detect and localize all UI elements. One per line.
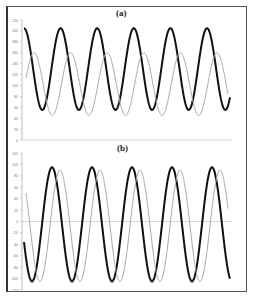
panel-label-a: (a) — [116, 8, 127, 18]
y-tick-label: -80 — [13, 266, 18, 270]
y-tick-label: 0 — [16, 139, 18, 143]
y-tick-label: 140 — [12, 62, 18, 66]
y-tick-label: -40 — [13, 243, 18, 247]
y-tick-label: -100 — [11, 277, 18, 281]
y-tick-label: -20 — [13, 231, 18, 235]
y-tick-label: 0 — [16, 220, 18, 224]
y-tick-label: -120 — [11, 289, 18, 293]
series-light — [26, 53, 228, 116]
panel-label-b: (b) — [117, 143, 128, 153]
y-tick-label: 180 — [12, 40, 18, 44]
y-tick-label: 40 — [14, 117, 18, 121]
y-tick-label: 120 — [12, 152, 18, 156]
y-tick-label: 20 — [14, 128, 18, 132]
y-tick-label: -60 — [13, 254, 18, 258]
y-tick-label: 20 — [14, 209, 18, 213]
y-tick-label: 80 — [14, 174, 18, 178]
y-tick-label: 60 — [14, 186, 18, 190]
y-tick-label: 220 — [12, 19, 18, 23]
series-dark — [24, 28, 230, 110]
y-tick-label: 60 — [14, 106, 18, 110]
y-tick-label: 100 — [12, 163, 18, 167]
y-tick-label: 80 — [14, 95, 18, 99]
y-tick-label: 40 — [14, 197, 18, 201]
y-tick-label: 160 — [12, 51, 18, 55]
y-tick-label: 120 — [12, 73, 18, 77]
y-tick-label: 100 — [12, 84, 18, 88]
y-tick-label: 200 — [12, 29, 18, 33]
